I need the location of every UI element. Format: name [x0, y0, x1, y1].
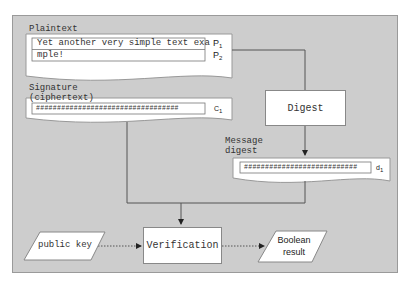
message-digest-value: ########################### [244, 162, 357, 173]
verification-box: Verification [143, 227, 222, 264]
d1-label: d1 [376, 162, 383, 176]
boolean-result-label: Booleanresult [266, 234, 322, 258]
message-digest-label: Messagedigest [225, 136, 263, 156]
digest-box: Digest [265, 90, 346, 126]
plaintext-label: Plaintext [29, 24, 78, 34]
signature-value: ################################## [36, 103, 179, 114]
plaintext-line-2: mple! [37, 50, 64, 61]
public-key-label: public key [38, 240, 92, 251]
c1-label: C1 [214, 103, 222, 117]
plaintext-line-1: Yet another very simple text exa [37, 38, 210, 49]
signature-verification-diagram: Plaintext Yet another very simple text e… [0, 0, 410, 285]
signature-label: Signature(ciphertext) [29, 83, 94, 103]
p2-label: P2 [213, 50, 222, 64]
